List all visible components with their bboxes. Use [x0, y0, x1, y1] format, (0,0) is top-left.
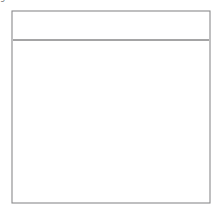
- caption-line-2: gathers: [0, 0, 34, 2]
- sewing-diagram: Press between gathers: [0, 0, 222, 215]
- flat-waistband-area: [12, 11, 210, 40]
- illustration-root: Press between gathers: [0, 0, 222, 215]
